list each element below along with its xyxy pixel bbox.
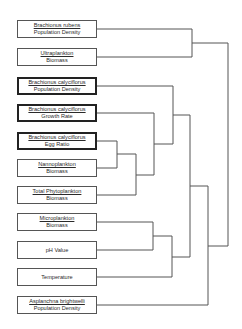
node-temperature: Temperature [17, 268, 97, 286]
node-microplankton-biomass: Microplankton Biomass [17, 213, 97, 231]
node-title: Asplanchna brightwelli [29, 298, 85, 305]
node-calyciflorus-population-density: Brachionus calyciflorus Population Densi… [17, 77, 97, 95]
node-ultraplankton-biomass: Ultraplankton Biomass [17, 48, 97, 66]
node-title: Brachionus calyciflorus [28, 134, 85, 141]
node-title: Temperature [41, 274, 72, 281]
node-brachionus-rubens-population-density: Brachionus rubens Population Density [17, 20, 97, 38]
node-nannoplankton-biomass: Nannoplankton Biomass [17, 159, 97, 177]
node-subtitle: Biomass [46, 57, 67, 64]
node-title: Brachionus calyciflorus [28, 79, 85, 86]
node-calyciflorus-growth-rate: Brachionus calyciflorus Growth Rate [17, 104, 97, 122]
node-subtitle: Biomass [46, 168, 67, 175]
node-ph-value: pH Value [17, 241, 97, 259]
node-subtitle: Growth Rate [41, 113, 72, 120]
node-title: Brachionus rubens [34, 22, 81, 29]
node-subtitle: Biomass [46, 195, 67, 202]
node-subtitle: Population Density [34, 86, 81, 93]
node-title: Ultraplankton [41, 50, 74, 57]
node-subtitle: Egg Ratio [45, 141, 70, 148]
node-title: Nannoplankton [38, 161, 76, 168]
node-title: pH Value [46, 247, 69, 254]
node-total-phytoplankton-biomass: Total Phytoplankton Biomass [17, 186, 97, 204]
node-title: Brachionus calyciflorus [28, 106, 85, 113]
node-title: Microplankton [40, 215, 75, 222]
node-subtitle: Population Density [34, 305, 81, 312]
node-title: Total Phytoplankton [33, 188, 82, 195]
node-subtitle: Population Density [34, 29, 81, 36]
node-subtitle: Biomass [46, 222, 67, 229]
node-calyciflorus-egg-ratio: Brachionus calyciflorus Egg Ratio [17, 132, 97, 150]
node-asplanchna-population-density: Asplanchna brightwelli Population Densit… [17, 296, 97, 314]
